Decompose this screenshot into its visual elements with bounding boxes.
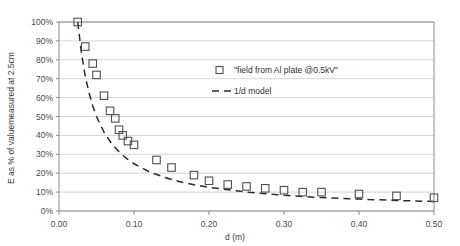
x-tick-label: 0.40 bbox=[351, 219, 368, 229]
data-point-marker bbox=[262, 185, 270, 193]
data-point-marker bbox=[190, 171, 198, 179]
data-point-marker bbox=[93, 71, 101, 79]
y-tick-label: 10% bbox=[36, 187, 53, 197]
y-tick-label: 0% bbox=[41, 206, 54, 216]
y-axis-title: E as % of valuemeasured at 2.5cm bbox=[6, 52, 16, 184]
x-axis-title: d (m) bbox=[225, 232, 245, 242]
data-point-marker bbox=[280, 186, 288, 194]
data-point-marker bbox=[393, 192, 401, 200]
y-tick-label: 100% bbox=[31, 17, 53, 27]
y-tick-label: 30% bbox=[36, 149, 53, 159]
y-tick-label: 70% bbox=[36, 74, 53, 84]
y-tick-label: 80% bbox=[36, 55, 53, 65]
x-tick-label: 0.50 bbox=[426, 219, 443, 229]
x-tick-label: 0.00 bbox=[51, 219, 68, 229]
y-tick-label: 40% bbox=[36, 130, 53, 140]
data-point-marker bbox=[243, 183, 251, 191]
data-point-marker bbox=[224, 181, 232, 189]
chart-container: 0%10%20%30%40%50%60%70%80%90%100% 0.000.… bbox=[0, 0, 460, 246]
y-tick-label: 50% bbox=[36, 112, 53, 122]
data-point-marker bbox=[112, 115, 120, 123]
chart-plot-area: 0%10%20%30%40%50%60%70%80%90%100% 0.000.… bbox=[0, 0, 460, 246]
data-point-marker bbox=[355, 190, 363, 198]
series-1d-model bbox=[78, 22, 434, 202]
model-curve-path bbox=[78, 22, 434, 202]
y-axis-tick-labels: 0%10%20%30%40%50%60%70%80%90%100% bbox=[31, 17, 59, 216]
data-point-marker bbox=[82, 43, 90, 51]
data-point-marker bbox=[100, 92, 108, 100]
data-point-marker bbox=[89, 60, 97, 68]
legend-label-1d-model: 1/d model bbox=[234, 86, 271, 96]
x-tick-label: 0.10 bbox=[126, 219, 143, 229]
x-axis-tick-labels: 0.000.100.200.300.400.50 bbox=[51, 211, 443, 229]
data-point-marker bbox=[205, 177, 213, 185]
x-tick-label: 0.20 bbox=[201, 219, 218, 229]
legend: "field from Al plate @0.5kV" 1/d model bbox=[212, 65, 338, 96]
y-tick-label: 90% bbox=[36, 36, 53, 46]
y-tick-label: 20% bbox=[36, 168, 53, 178]
data-point-marker bbox=[168, 164, 176, 172]
series-field-from-al-plate bbox=[74, 18, 438, 201]
legend-marker-open-square bbox=[216, 67, 223, 74]
y-tick-label: 60% bbox=[36, 93, 53, 103]
data-point-marker bbox=[153, 156, 161, 164]
x-tick-label: 0.30 bbox=[276, 219, 293, 229]
legend-label-field-from-al-plate: "field from Al plate @0.5kV" bbox=[234, 65, 338, 75]
data-point-marker bbox=[106, 107, 114, 115]
